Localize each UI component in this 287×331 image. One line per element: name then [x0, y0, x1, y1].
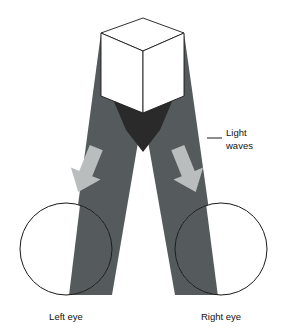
light-waves-label-line1: Light	[226, 127, 247, 138]
cube	[101, 18, 184, 113]
diagram-canvas: Light waves Left eye Right eye	[0, 0, 287, 331]
left-eye-label: Left eye	[49, 311, 83, 322]
light-waves-label-line2: waves	[225, 140, 253, 151]
stereopsis-diagram: Light waves Left eye Right eye	[0, 0, 287, 331]
right-eye-label: Right eye	[201, 311, 241, 322]
